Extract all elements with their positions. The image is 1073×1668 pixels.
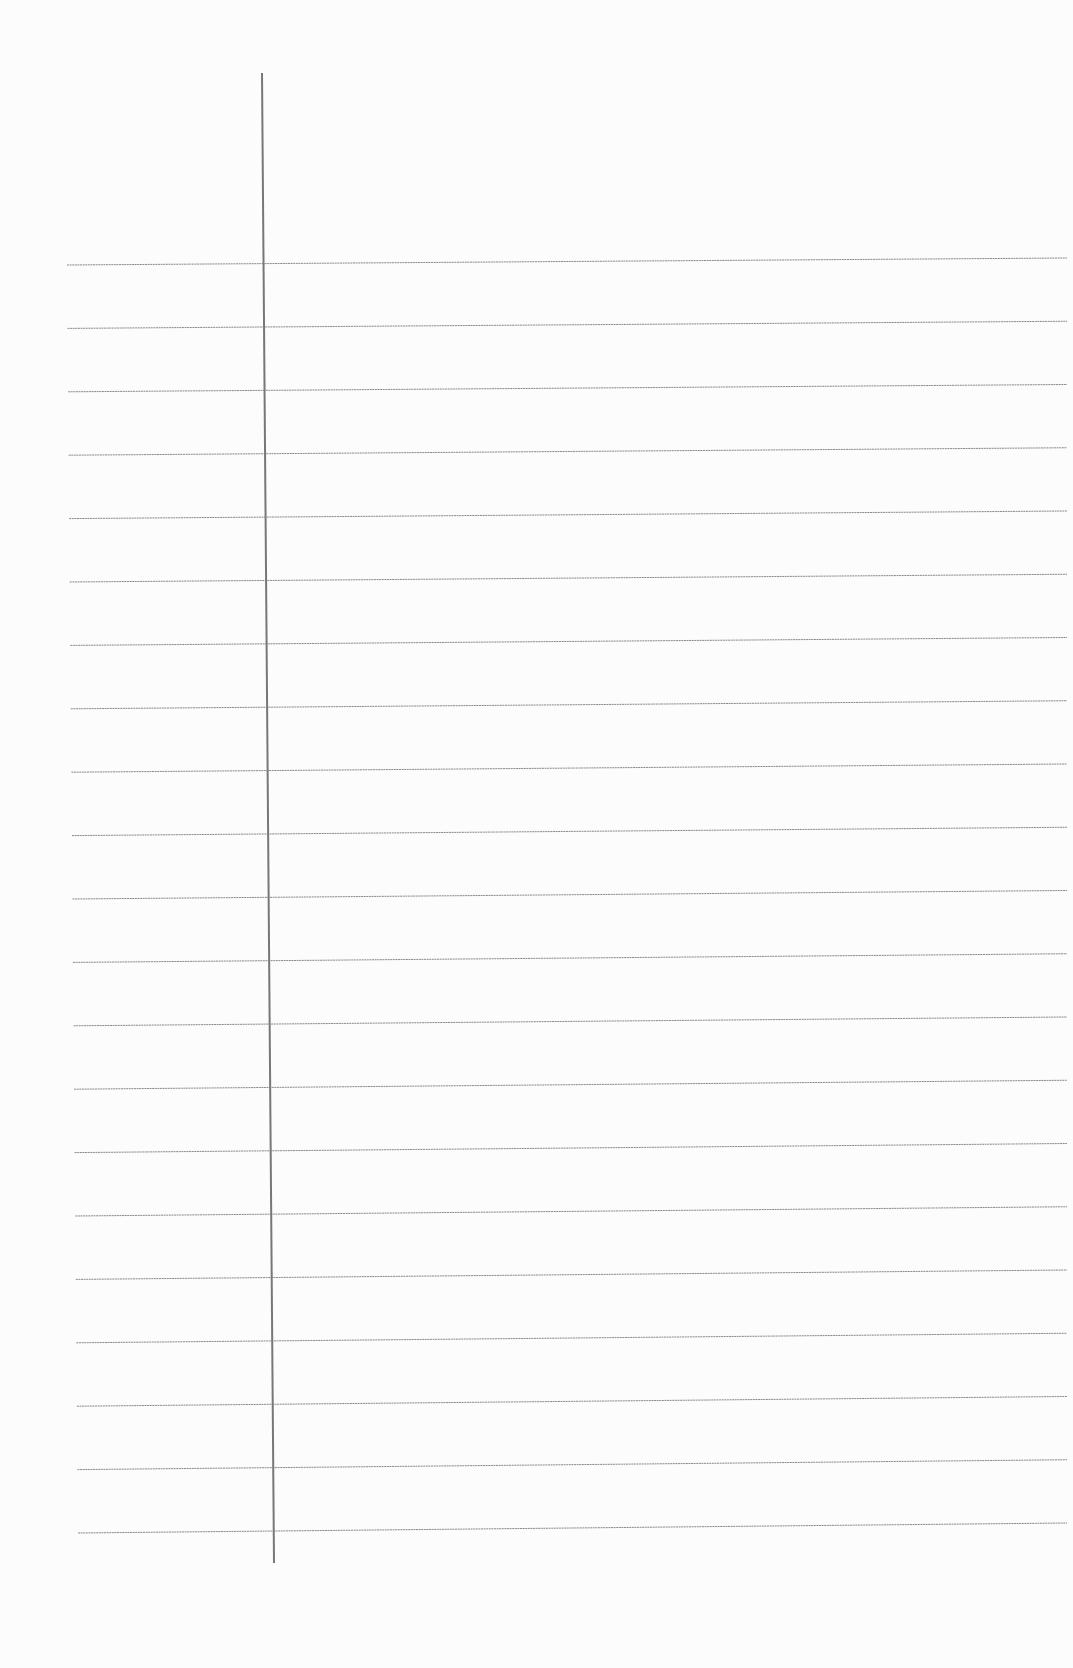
- ruled-line: [70, 638, 1067, 646]
- ruled-line: [67, 258, 1067, 265]
- ruled-line: [73, 954, 1067, 963]
- ruled-line: [73, 891, 1068, 900]
- ruled-lines: [0, 0, 1073, 1668]
- ruled-line: [75, 1144, 1067, 1153]
- ruled-line: [71, 701, 1067, 709]
- ruled-line: [75, 1207, 1067, 1216]
- ruled-line: [69, 511, 1067, 519]
- margin-line: [262, 73, 274, 1563]
- ruled-line: [74, 1017, 1067, 1026]
- ruled-line: [74, 1080, 1067, 1089]
- ruled-line: [76, 1270, 1067, 1279]
- ruled-line: [78, 1523, 1067, 1533]
- ruled-line: [69, 448, 1067, 455]
- ruled-line: [71, 764, 1067, 772]
- ruled-line: [77, 1460, 1067, 1470]
- ruled-line: [68, 385, 1067, 392]
- ruled-line: [72, 827, 1067, 835]
- ruled-line: [76, 1333, 1067, 1343]
- ruled-line: [77, 1397, 1067, 1407]
- lined-paper-sheet: [0, 0, 1073, 1668]
- ruled-line: [70, 574, 1067, 582]
- ruled-line: [68, 321, 1067, 328]
